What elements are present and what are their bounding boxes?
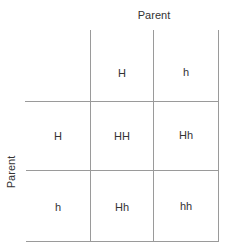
row-header-allele-1: H	[26, 121, 90, 151]
grid-line-horizontal-3	[26, 241, 219, 242]
row-header-allele-2: h	[26, 192, 90, 222]
offspring-cell-r1c2: Hh	[154, 120, 218, 150]
top-parent-label: Parent	[125, 9, 183, 21]
column-header-allele-1: H	[91, 58, 153, 88]
offspring-cell-r2c2: hh	[154, 191, 218, 221]
grid-line-horizontal-2	[26, 170, 219, 171]
column-header-allele-2: h	[154, 57, 218, 87]
grid-line-horizontal-1	[25, 101, 219, 102]
offspring-cell-r1c1: HH	[91, 121, 153, 151]
grid-line-vertical-3	[218, 30, 219, 241]
side-parent-label: Parent	[5, 143, 17, 201]
offspring-cell-r2c1: Hh	[91, 192, 153, 222]
